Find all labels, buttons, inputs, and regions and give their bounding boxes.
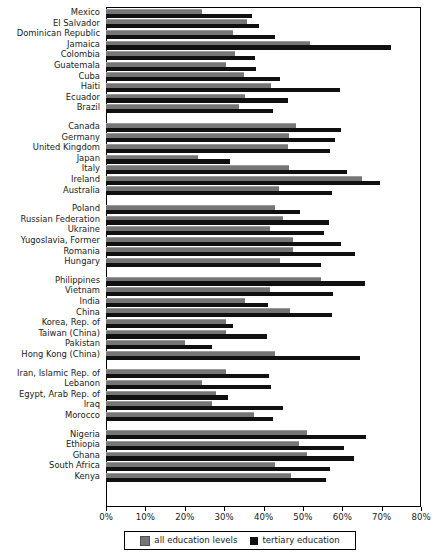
- bar-tertiary-education: [106, 478, 326, 482]
- category-label: Hungary: [64, 257, 100, 266]
- bar-group-row: [106, 319, 421, 330]
- bar-tertiary-education: [106, 417, 273, 421]
- category-label: Russian Federation: [20, 215, 100, 224]
- category-label: Jamaica: [67, 40, 100, 49]
- category-label: Italy: [82, 164, 100, 173]
- bar-tertiary-education: [106, 292, 333, 296]
- bar-group-row: [106, 51, 421, 62]
- category-label: Ghana: [73, 451, 100, 460]
- category-label: Canada: [68, 122, 100, 131]
- category-label: Lebanon: [64, 379, 100, 388]
- bar-group-row: [106, 154, 421, 165]
- bar-group-row: [106, 298, 421, 309]
- bar-group-row: [106, 72, 421, 83]
- value-axis: 0%10%20%30%40%50%60%70%80%: [106, 507, 421, 527]
- bar-group-row: [106, 473, 421, 484]
- legend-swatch-icon-all: [140, 536, 150, 546]
- bar-group-row: [106, 62, 421, 73]
- bar-group-row: [106, 329, 421, 340]
- bar-group-row: [106, 205, 421, 216]
- category-label: El Salvador: [53, 19, 100, 28]
- bar-tertiary-education: [106, 395, 228, 399]
- bar-group-row: [106, 308, 421, 319]
- bar-tertiary-education: [106, 98, 288, 102]
- bar-group-row: [106, 340, 421, 351]
- bar-tertiary-education: [106, 456, 354, 460]
- category-label: China: [76, 308, 100, 317]
- category-label: Australia: [63, 186, 100, 195]
- bar-group-row: [106, 462, 421, 473]
- category-label: Morocco: [65, 411, 100, 420]
- x-tick-label: 70%: [372, 512, 391, 522]
- x-tick-mark: [106, 507, 107, 511]
- category-label: Iraq: [84, 400, 100, 409]
- bar-group-row: [106, 430, 421, 441]
- bar-group-row: [106, 19, 421, 30]
- category-label: Cuba: [78, 72, 100, 81]
- bar-group-row: [106, 380, 421, 391]
- bar-tertiary-education: [106, 303, 268, 307]
- category-label: Poland: [72, 204, 100, 213]
- legend-label-all: all education levels: [154, 536, 237, 545]
- bar-group-row: [106, 369, 421, 380]
- category-label: Pakistan: [65, 339, 100, 348]
- category-label: Haiti: [81, 82, 100, 91]
- x-tick-label: 20%: [175, 512, 194, 522]
- legend-item-tertiary-education: tertiary education: [250, 536, 339, 545]
- category-label: Guatemala: [54, 61, 100, 70]
- category-label: Germany: [62, 133, 101, 142]
- bar-tertiary-education: [106, 181, 380, 185]
- bar-tertiary-education: [106, 170, 347, 174]
- bar-group-row: [106, 401, 421, 412]
- category-label: Iran, Islamic Rep. of: [17, 369, 100, 378]
- category-label: India: [79, 297, 100, 306]
- bar-tertiary-education: [106, 35, 275, 39]
- bar-group-row: [106, 83, 421, 94]
- category-label: Ecuador: [66, 93, 100, 102]
- bar-tertiary-education: [106, 14, 252, 18]
- bar-group-row: [106, 247, 421, 258]
- category-label: Mexico: [71, 8, 100, 17]
- bar-group-row: [106, 441, 421, 452]
- bar-tertiary-education: [106, 374, 269, 378]
- bar-group-row: [106, 276, 421, 287]
- x-tick-label: 30%: [215, 512, 234, 522]
- bar-group-row: [106, 40, 421, 51]
- bar-tertiary-education: [106, 210, 300, 214]
- bar-group-row: [106, 133, 421, 144]
- category-label: Egypt, Arab Rep. of: [19, 390, 100, 399]
- chart-legend: all education levels tertiary education: [124, 531, 356, 550]
- category-label: Dominican Republic: [17, 29, 100, 38]
- bar-tertiary-education: [106, 385, 271, 389]
- bar-group-row: [106, 176, 421, 187]
- bar-group-row: [106, 93, 421, 104]
- bar-group-row: [106, 123, 421, 134]
- bar-tertiary-education: [106, 446, 344, 450]
- category-label: Nigeria: [70, 430, 100, 439]
- bar-group-row: [106, 287, 421, 298]
- bar-tertiary-education: [106, 45, 391, 49]
- bar-group-row: [106, 30, 421, 41]
- x-tick-label: 10%: [136, 512, 155, 522]
- bars-layer: [106, 7, 421, 507]
- bar-tertiary-education: [106, 334, 267, 338]
- category-label: Vietnam: [65, 286, 100, 295]
- x-tick-mark: [264, 507, 265, 511]
- category-axis-labels: MexicoEl SalvadorDominican RepublicJamai…: [0, 7, 104, 507]
- bar-tertiary-education: [106, 242, 341, 246]
- x-tick-label: 50%: [293, 512, 312, 522]
- bar-tertiary-education: [106, 313, 332, 317]
- bar-group-row: [106, 144, 421, 155]
- bar-group-row: [106, 9, 421, 20]
- bar-tertiary-education: [106, 220, 329, 224]
- category-label: United Kingdom: [33, 143, 100, 152]
- bar-tertiary-education: [106, 159, 230, 163]
- bar-group-row: [106, 258, 421, 269]
- bar-group-row: [106, 237, 421, 248]
- category-label: Brazil: [77, 103, 100, 112]
- bar-tertiary-education: [106, 324, 233, 328]
- x-tick-mark: [185, 507, 186, 511]
- x-tick-mark: [342, 507, 343, 511]
- bar-tertiary-education: [106, 467, 330, 471]
- bar-group-row: [106, 226, 421, 237]
